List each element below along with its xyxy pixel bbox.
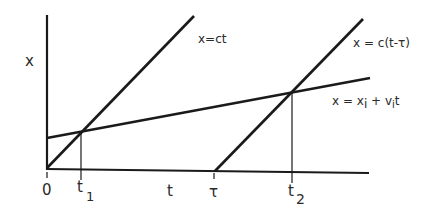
origin-label: 0 [42,181,52,199]
t2-sub: 2 [296,191,305,207]
worldline-mid: + v [367,94,392,108]
t1-base: t [77,178,83,196]
t2-label: t2 [288,182,305,207]
t2-base: t [288,182,294,200]
label-particle-worldline: x = xi + vit [332,94,400,111]
label-x-equals-ct: x=ct [198,32,227,46]
spacetime-diagram: x x=ct x = c(t-τ) x = xi + vit 0 t1 t τ … [0,0,432,217]
x-axis-label: x [25,52,34,70]
t-axis [46,169,369,173]
line-particle-worldline [47,78,370,138]
line-x-equals-ct [47,16,194,168]
worldline-lhs: x = x [332,94,364,108]
label-x-equals-c-t-minus-tau: x = c(t-τ) [353,36,410,50]
t1-label: t1 [77,178,94,204]
t-axis-label: t [167,182,173,200]
worldline-rhs: t [395,94,400,108]
tau-label: τ [209,183,218,201]
t1-sub: 1 [86,189,94,204]
